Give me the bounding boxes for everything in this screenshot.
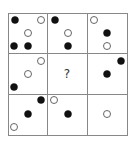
filled-dot-icon: [25, 111, 32, 118]
open-dot-icon: [104, 43, 111, 50]
puzzle-cell-r0-c2: [91, 17, 111, 50]
puzzle-cell-r1-c2: [104, 58, 125, 78]
filled-dot-icon: [25, 43, 32, 50]
filled-dot-icon: [104, 30, 111, 37]
open-dot-icon: [25, 71, 32, 78]
puzzle-cell-r0-c0: [11, 17, 45, 50]
open-dot-icon: [104, 111, 111, 118]
open-dot-icon: [38, 58, 45, 65]
filled-dot-icon: [38, 97, 45, 104]
puzzle-cell-r1-c0: [11, 58, 45, 91]
filled-dot-icon: [118, 58, 125, 65]
puzzle-cell-r0-c1: [52, 17, 72, 50]
open-dot-icon: [25, 30, 32, 37]
filled-dot-icon: [65, 43, 72, 50]
open-dot-icon: [11, 124, 18, 131]
puzzle-cell-r2-c0: [11, 97, 45, 131]
filled-dot-icon: [65, 111, 72, 118]
filled-dot-icon: [52, 17, 59, 24]
filled-dot-icon: [11, 84, 18, 91]
missing-cell-question-mark: ?: [64, 68, 70, 80]
open-dot-icon: [65, 30, 72, 37]
puzzle-cell-r2-c1: [51, 97, 72, 118]
open-dot-icon: [51, 97, 58, 104]
filled-dot-icon: [104, 71, 111, 78]
puzzle-cell-r2-c2: [104, 111, 111, 118]
open-dot-icon: [91, 17, 98, 24]
open-dot-icon: [38, 17, 45, 24]
filled-dot-icon: [11, 43, 18, 50]
filled-dot-icon: [12, 17, 19, 24]
